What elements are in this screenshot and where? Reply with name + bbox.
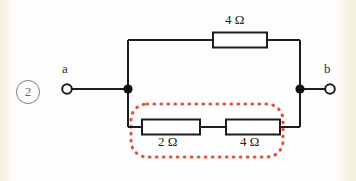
- terminal-a-label: a: [62, 61, 68, 77]
- top-resistor-label: 4 Ω: [225, 12, 244, 28]
- bottom-right-resistor-body: [226, 120, 280, 135]
- right-junction-dot: [295, 84, 304, 93]
- bottom-left-resistor-label: 2 Ω: [158, 134, 177, 150]
- circuit-diagram-screenshot: 2 a b 4 Ω 2 Ω 4 Ω: [0, 0, 356, 181]
- left-junction-dot: [123, 84, 132, 93]
- top-resistor-body: [213, 33, 267, 48]
- bottom-right-resistor-label: 4 Ω: [240, 134, 259, 150]
- bottom-left-resistor-body: [142, 120, 200, 135]
- terminal-b-label: b: [324, 61, 331, 77]
- terminal-b-node: [325, 84, 335, 94]
- problem-number-badge: 2: [16, 80, 40, 104]
- terminal-a-node: [62, 84, 72, 94]
- circuit-schematic: [0, 0, 356, 181]
